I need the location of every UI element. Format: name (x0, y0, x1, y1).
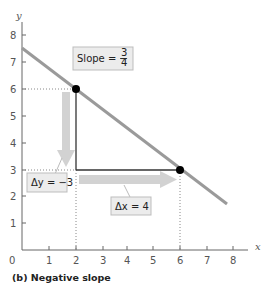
point-2-6 (72, 85, 80, 93)
svg-text:5: 5 (10, 111, 16, 122)
svg-text:7: 7 (204, 255, 210, 266)
svg-text:3: 3 (10, 165, 16, 176)
svg-text:1: 1 (10, 218, 16, 229)
x-tick-labels: 0 1 2 3 4 5 6 7 8 (9, 255, 236, 266)
negative-slope-chart: 1 2 3 4 5 6 7 8 0 1 2 3 4 5 6 7 8 y x (0, 0, 275, 270)
delta-x-label-box: Δx = 4 (111, 197, 151, 215)
svg-text:7: 7 (10, 57, 16, 68)
svg-text:2: 2 (10, 191, 16, 202)
svg-text:2: 2 (73, 255, 79, 266)
chart-caption: (b) Negative slope (12, 272, 111, 283)
point-6-3 (176, 166, 184, 174)
y-tick-labels: 1 2 3 4 5 6 7 8 (10, 30, 16, 229)
svg-text:8: 8 (10, 30, 16, 41)
svg-text:6: 6 (10, 84, 16, 95)
svg-text:8: 8 (230, 255, 236, 266)
delta-x-arrow (79, 171, 177, 188)
delta-x-leader (124, 185, 130, 197)
svg-text:Δx = 4: Δx = 4 (115, 201, 149, 212)
svg-text:4: 4 (124, 255, 130, 266)
svg-text:3: 3 (100, 255, 106, 266)
svg-text:Δy = −3: Δy = −3 (31, 177, 73, 188)
svg-text:4: 4 (121, 57, 127, 68)
svg-text:5: 5 (150, 255, 156, 266)
delta-y-leader (55, 158, 62, 174)
svg-text:1: 1 (46, 255, 52, 266)
delta-y-arrow (57, 92, 75, 167)
y-ticks (22, 35, 26, 223)
delta-y-label-box: Δy = −3 (27, 173, 73, 192)
y-axis-label: y (15, 10, 22, 21)
svg-text:6: 6 (177, 255, 183, 266)
svg-text:0: 0 (9, 255, 15, 266)
svg-text:4: 4 (10, 138, 16, 149)
x-ticks (49, 246, 233, 250)
x-axis-label: x (255, 241, 261, 252)
slope-label-box: Slope = − 3 4 (73, 47, 133, 70)
